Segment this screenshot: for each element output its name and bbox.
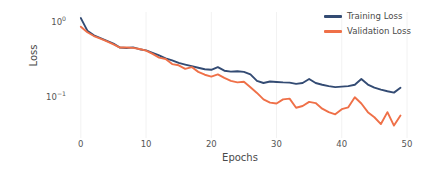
legend-item-training-loss[interactable]: Training Loss xyxy=(324,11,411,22)
x-axis-label: Epochs xyxy=(73,152,407,163)
x-tick-label-50: 50 xyxy=(402,140,413,149)
legend-item-validation-loss[interactable]: Validation Loss xyxy=(324,26,411,37)
x-tick-label-30: 30 xyxy=(271,140,282,149)
y-tick-label-1: 10−1 xyxy=(30,92,66,101)
legend-label: Validation Loss xyxy=(347,27,411,36)
legend-swatch-line-icon xyxy=(324,30,342,33)
loss-chart-figure: 10010−1 01020304050 Loss Epochs Training… xyxy=(0,0,440,177)
x-tick-label-10: 10 xyxy=(141,140,152,149)
line-validation-loss xyxy=(81,27,401,126)
y-axis-label: Loss xyxy=(28,33,39,79)
legend-label: Training Loss xyxy=(347,12,403,21)
y-tick-label-0: 100 xyxy=(30,18,66,27)
x-tick-label-0: 0 xyxy=(78,140,83,149)
x-tick-label-20: 20 xyxy=(206,140,217,149)
chart-legend: Training LossValidation Loss xyxy=(324,11,411,37)
x-tick-label-40: 40 xyxy=(336,140,347,149)
legend-swatch-line-icon xyxy=(324,15,342,18)
